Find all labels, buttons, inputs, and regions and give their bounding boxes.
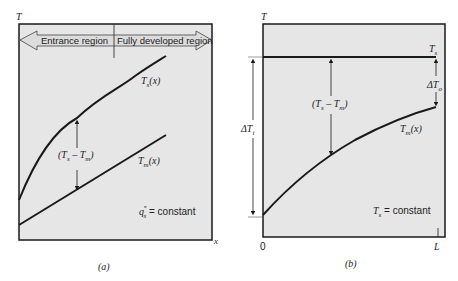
panel-a-caption: (a): [98, 261, 110, 273]
panel-a-x-axis-label: x: [213, 236, 218, 246]
entrance-region-label: Entrance region: [41, 35, 108, 46]
panel-b: T ΔTi (Ts – Tm) ΔTo Ts Tm(x) Ts = consta…: [240, 11, 445, 270]
panel-b-y-axis-label: T: [261, 11, 268, 22]
tick-L-label: L: [433, 241, 440, 252]
panel-a: T x Entrance region Fully developed regi…: [16, 11, 218, 273]
panel-a-y-axis-label: T: [16, 11, 23, 22]
fully-developed-region-label: Fully developed region: [117, 35, 213, 46]
panel-b-caption: (b): [345, 258, 357, 270]
tick-0-label: 0: [260, 241, 266, 252]
delta-ti-label: ΔTi: [240, 123, 254, 137]
